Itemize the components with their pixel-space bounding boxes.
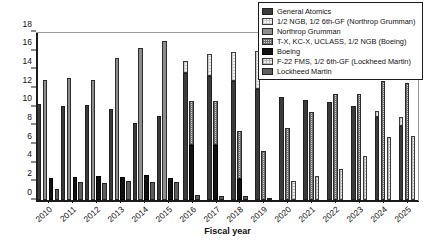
- chart-bar[interactable]: [85, 105, 90, 200]
- chart-bar[interactable]: [303, 100, 308, 200]
- bar-segment: [399, 117, 404, 126]
- chart-bar[interactable]: [411, 136, 416, 200]
- bar-segment: [55, 189, 60, 200]
- bar-segment: [231, 81, 236, 200]
- chart-legend: General Atomics1/2 NGB, 1/2 6th-GF (Nort…: [258, 2, 423, 80]
- chart-bar[interactable]: [213, 101, 218, 200]
- chart-bar[interactable]: [327, 102, 332, 200]
- chart-bar[interactable]: [219, 196, 224, 200]
- chart-bar[interactable]: [102, 183, 107, 200]
- bar-segment: [37, 104, 42, 200]
- chart-bar[interactable]: [133, 123, 138, 200]
- chart-bar[interactable]: [96, 176, 101, 200]
- chart-bar[interactable]: [261, 151, 266, 200]
- legend-item-label: Northrop Grumman: [277, 27, 341, 36]
- x-axis-tick-label: 2013: [106, 205, 125, 224]
- legend-item-northrop-grumman[interactable]: Northrop Grumman: [262, 26, 418, 36]
- chart-bar[interactable]: [363, 156, 368, 200]
- bar-segment: [138, 48, 143, 200]
- legend-item-tx-kcx-uclass-half-ngb[interactable]: T-X, KC-X, UCLASS, 1/2 NGB (Boeing): [262, 36, 418, 46]
- x-axis-tick-mark: [48, 200, 49, 203]
- chart-bar[interactable]: [115, 58, 120, 200]
- x-axis-label: Fiscal year: [36, 226, 419, 236]
- legend-item-half-ngb-half-6thgf[interactable]: 1/2 NGB, 1/2 6th-GF (Northrop Grumman): [262, 16, 418, 26]
- bar-segment: [231, 52, 236, 82]
- y-axis-tick-label: 0: [27, 187, 32, 196]
- bar-segment: [237, 131, 242, 178]
- legend-item-label: Lockheed Martin: [277, 67, 332, 76]
- legend-item-f22-fms-half-6thgf[interactable]: F-22 FMS, 1/2 6th-GF (Lockheed Martin): [262, 56, 418, 66]
- x-axis-tick-mark: [239, 200, 240, 203]
- legend-item-general-atomics[interactable]: General Atomics: [262, 6, 418, 16]
- x-axis-tick-label: 2021: [297, 205, 316, 224]
- chart-bar[interactable]: [279, 97, 284, 200]
- bar-segment: [213, 145, 218, 200]
- bar-segment: [183, 61, 188, 73]
- chart-bar[interactable]: [162, 41, 167, 200]
- chart-bar[interactable]: [138, 48, 143, 200]
- chart-bar[interactable]: [168, 178, 173, 200]
- bar-segment: [375, 111, 380, 117]
- bar-segment: [61, 106, 66, 200]
- bar-segment: [78, 182, 83, 200]
- legend-item-lockheed-martin[interactable]: Lockheed Martin: [262, 66, 418, 76]
- chart-bar[interactable]: [195, 195, 200, 200]
- x-axis-tick-mark: [287, 200, 288, 203]
- chart-bar[interactable]: [67, 78, 72, 200]
- chart-bar[interactable]: [126, 181, 131, 200]
- bar-segment: [303, 100, 308, 200]
- bar-group: 2014: [132, 32, 156, 200]
- chart-bar[interactable]: [375, 111, 380, 200]
- chart-bar[interactable]: [61, 106, 66, 200]
- legend-item-boeing[interactable]: Boeing: [262, 46, 418, 56]
- chart-bar[interactable]: [37, 104, 42, 200]
- chart-bar[interactable]: [49, 178, 54, 200]
- chart-bar[interactable]: [285, 128, 290, 200]
- chart-bar[interactable]: [174, 182, 179, 200]
- y-axis-tick-label: 4: [27, 150, 32, 159]
- chart-bar[interactable]: [357, 94, 362, 200]
- chart-bar[interactable]: [189, 101, 194, 200]
- bar-segment: [285, 128, 290, 200]
- legend-swatch-icon: [262, 38, 273, 45]
- chart-bar[interactable]: [55, 189, 60, 200]
- chart-bar[interactable]: [333, 94, 338, 200]
- chart-bar[interactable]: [315, 176, 320, 200]
- x-axis-tick-label: 2019: [250, 205, 269, 224]
- bar-segment: [405, 83, 410, 200]
- chart-bar[interactable]: [157, 116, 162, 200]
- chart-bar[interactable]: [351, 106, 356, 200]
- chart-bar[interactable]: [399, 117, 404, 200]
- chart-bar[interactable]: [405, 83, 410, 200]
- chart-bar[interactable]: [109, 109, 114, 200]
- chart-bar[interactable]: [73, 177, 78, 200]
- y-axis-tick-label: 14: [23, 57, 32, 66]
- chart-bar[interactable]: [91, 80, 96, 200]
- chart-bar[interactable]: [43, 80, 48, 200]
- chart-bar[interactable]: [387, 137, 392, 200]
- x-axis-tick-label: 2016: [178, 205, 197, 224]
- chart-bar[interactable]: [231, 52, 236, 200]
- x-axis-tick-mark: [72, 200, 73, 203]
- chart-bar[interactable]: [207, 54, 212, 200]
- bar-segment: [120, 177, 125, 200]
- x-axis-tick-mark: [216, 200, 217, 203]
- chart-bar[interactable]: [237, 131, 242, 200]
- chart-bar[interactable]: [339, 169, 344, 200]
- chart-bar[interactable]: [291, 181, 296, 200]
- chart-bar[interactable]: [120, 177, 125, 200]
- bar-segment: [213, 101, 218, 145]
- chart-bar[interactable]: [183, 61, 188, 200]
- x-axis-tick-mark: [383, 200, 384, 203]
- chart-bar[interactable]: [381, 81, 386, 200]
- bar-segment: [126, 181, 131, 200]
- chart-bar[interactable]: [144, 175, 149, 200]
- bar-segment: [85, 105, 90, 200]
- chart-bar[interactable]: [150, 182, 155, 200]
- chart-bar[interactable]: [267, 199, 272, 200]
- y-axis-tick-label: 18: [23, 19, 32, 28]
- chart-bar[interactable]: [78, 182, 83, 200]
- chart-bar[interactable]: [243, 196, 248, 200]
- legend-swatch-icon: [262, 18, 273, 25]
- chart-bar[interactable]: [309, 112, 314, 200]
